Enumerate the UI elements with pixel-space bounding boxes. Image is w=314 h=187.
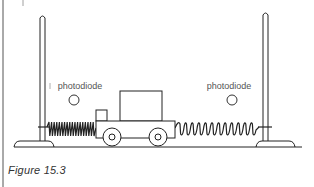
left-photodiode-icon [69,95,79,105]
left-spring-coils [47,122,96,136]
right-photodiode-label: photodiode [207,81,252,91]
trolley-load-block [120,91,162,121]
trolley [96,91,175,146]
trolley-wheel-left-hub [109,134,115,140]
right-spring [175,123,259,135]
left-spring [47,122,96,136]
trolley-small-block [96,110,107,121]
trolley-spring-diagram: photodiode photodiode [0,0,314,187]
left-photodiode-label: photodiode [58,81,103,91]
right-spring-coils [175,123,259,135]
figure-caption: Figure 15.3 [8,164,66,176]
trolley-wheel-right-hub [155,134,161,140]
right-photodiode-icon [227,95,237,105]
